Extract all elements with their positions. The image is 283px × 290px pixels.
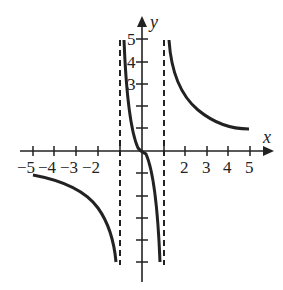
x-tick-label: 5 xyxy=(245,158,254,177)
x-tick-label: −3 xyxy=(60,158,78,177)
x-tick-label: 3 xyxy=(202,158,211,177)
chart: x y −5 −4 −3 −2 2 3 4 5 5 4 3 xyxy=(0,0,283,290)
y-axis-label: y xyxy=(148,12,158,32)
x-tick-label: 4 xyxy=(223,158,232,177)
right-branch xyxy=(169,40,249,129)
x-axis-arrow-icon xyxy=(263,146,274,156)
x-tick-labels: −5 −4 −3 −2 2 3 4 5 xyxy=(17,158,254,177)
x-tick-label: 2 xyxy=(180,158,189,177)
y-tick-labels: 5 4 3 xyxy=(127,30,136,94)
y-tick-label: 4 xyxy=(127,53,136,72)
x-tick-label: −5 xyxy=(17,158,35,177)
x-tick-label: −2 xyxy=(82,158,100,177)
x-axis-label: x xyxy=(262,127,271,147)
x-tick-label: −4 xyxy=(38,158,57,177)
left-branch xyxy=(33,175,116,262)
y-tick-label: 3 xyxy=(127,75,136,94)
y-axis-arrow-icon xyxy=(137,16,147,27)
y-tick-label: 5 xyxy=(127,30,136,49)
